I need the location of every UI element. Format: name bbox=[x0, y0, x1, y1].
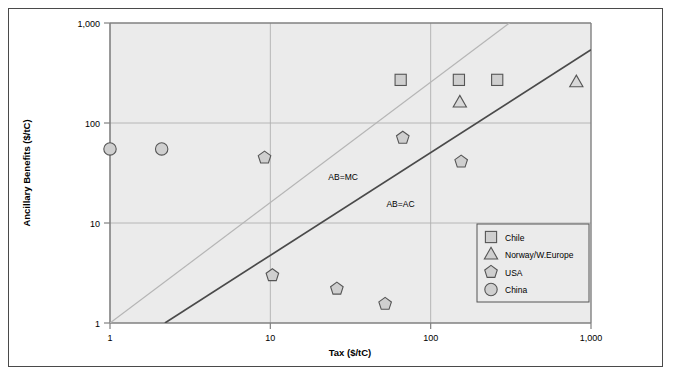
y-axis-title: Ancillary Benefits ($/tC) bbox=[21, 119, 32, 226]
x-tick-label: 100 bbox=[423, 333, 438, 343]
data-point-chile bbox=[453, 74, 464, 85]
legend-marker-chile bbox=[485, 231, 496, 242]
data-point-chile bbox=[492, 74, 503, 85]
y-tick-label: 100 bbox=[85, 119, 100, 129]
annotation-abmc: AB=MC bbox=[328, 172, 358, 182]
legend-label-china: China bbox=[505, 285, 527, 295]
data-point-chile bbox=[395, 74, 406, 85]
y-tick-label: 1 bbox=[95, 319, 100, 329]
legend-label-chile: Chile bbox=[505, 233, 525, 243]
data-point-china bbox=[104, 143, 116, 155]
x-tick-label: 1,000 bbox=[580, 333, 603, 343]
legend-label-usa: USA bbox=[505, 268, 523, 278]
x-tick-label: 10 bbox=[265, 333, 275, 343]
x-axis-title: Tax ($/tC) bbox=[329, 347, 372, 358]
legend-marker-china bbox=[485, 283, 497, 295]
figure-container: 1101001,0001101001,000 AB=MCAB=AC ChileN… bbox=[0, 0, 673, 377]
scatter-chart: 1101001,0001101001,000 AB=MCAB=AC ChileN… bbox=[0, 0, 673, 377]
annotation-abac: AB=AC bbox=[386, 199, 414, 209]
legend: ChileNorway/W.EuropeUSAChina bbox=[477, 224, 589, 302]
y-tick-label: 10 bbox=[90, 219, 100, 229]
x-tick-label: 1 bbox=[107, 333, 112, 343]
data-point-china bbox=[155, 143, 167, 155]
legend-label-norwayweurope: Norway/W.Europe bbox=[505, 250, 574, 260]
y-tick-label: 1,000 bbox=[77, 19, 100, 29]
